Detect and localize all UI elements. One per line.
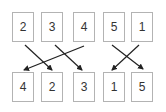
arrow-2-icon [25,45,52,70]
arrow-4-icon [24,46,84,70]
arrows-layer [0,0,166,112]
